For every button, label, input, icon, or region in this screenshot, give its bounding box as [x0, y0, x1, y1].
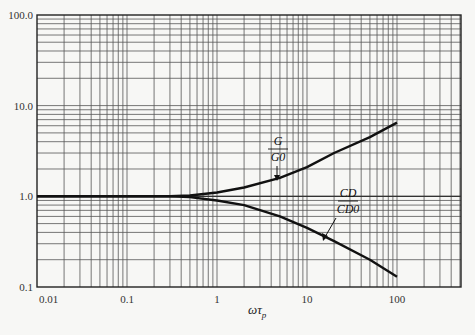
cd-ratio-label: CDCD0 [337, 186, 360, 216]
log-log-chart: 0.010.11101000.11.010.0100.0GG0CDCD0 [0, 0, 475, 335]
x-axis-label-main: ωτ [248, 302, 262, 317]
y-tick-label: 10.0 [14, 100, 34, 112]
svg-text:CD0: CD0 [337, 202, 360, 216]
y-tick-label: 1.0 [19, 190, 33, 202]
x-tick-label: 0.01 [39, 293, 58, 305]
svg-text:G: G [274, 134, 283, 148]
svg-text:G0: G0 [271, 150, 286, 164]
grid [37, 15, 461, 287]
x-tick-label: 0.1 [120, 293, 134, 305]
x-axis-label: ωτp [248, 302, 266, 320]
x-tick-label: 1 [214, 293, 220, 305]
x-axis-label-sub: p [262, 310, 267, 320]
y-tick-label: 0.1 [19, 281, 33, 293]
x-tick-label: 10 [302, 293, 314, 305]
y-tick-label: 100.0 [8, 9, 33, 21]
svg-text:CD: CD [340, 186, 357, 200]
x-tick-label: 100 [389, 293, 406, 305]
